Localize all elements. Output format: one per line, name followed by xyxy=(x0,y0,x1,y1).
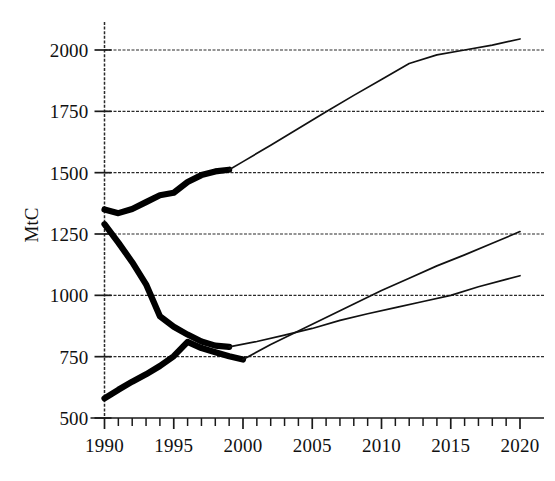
y-axis-title: MtC xyxy=(21,208,42,243)
x-tick-label-1995: 1995 xyxy=(154,435,193,456)
chart-figure: 20001750150012501000750500 1990199520002… xyxy=(0,0,555,481)
line-chart: 20001750150012501000750500 1990199520002… xyxy=(0,0,555,481)
y-tick-label-1750: 1750 xyxy=(50,101,89,122)
y-tick-label-500: 500 xyxy=(59,408,88,429)
x-tick-label-1990: 1990 xyxy=(85,435,124,456)
y-tick-label-1500: 1500 xyxy=(50,163,89,184)
x-tick-label-2000: 2000 xyxy=(224,435,263,456)
y-tick-label-1250: 1250 xyxy=(50,224,89,245)
x-tick-label-2020: 2020 xyxy=(501,435,540,456)
y-tick-label-2000: 2000 xyxy=(50,40,89,61)
y-axis-title-label: MtC xyxy=(21,208,42,243)
x-tick-label-2015: 2015 xyxy=(431,435,470,456)
y-tick-label-1000: 1000 xyxy=(50,285,89,306)
x-tick-label-2005: 2005 xyxy=(293,435,332,456)
y-tick-label-750: 750 xyxy=(59,347,88,368)
x-tick-label-2010: 2010 xyxy=(362,435,401,456)
